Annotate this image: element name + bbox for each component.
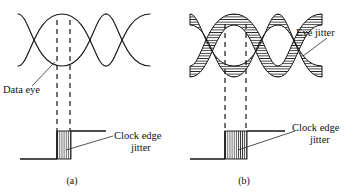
eye-trace-lower: [18, 14, 106, 66]
clock-edge-jitter-band: [225, 131, 247, 159]
panel-a-eye-diagram: [18, 14, 150, 66]
data-eye-label: Data eye: [3, 84, 40, 95]
clock-edge-jitter-label-line1: Clock edge: [114, 130, 162, 141]
panel-a: Data eye Clock edge jitter (a): [3, 14, 162, 187]
eye-trace-upper-right: [106, 14, 150, 66]
panel-a-clock-waveform: [20, 131, 106, 159]
eye-jitter-leader-line: [303, 38, 327, 56]
panel-b-caption: (b): [238, 175, 250, 187]
panel-b: Eye jitter Clock edge jitter (b): [190, 14, 340, 187]
panel-b-clock-waveform: [190, 131, 285, 159]
clock-edge-jitter-label-line2: jitter: [130, 142, 151, 153]
clock-edge-jitter-leader-line: [66, 136, 113, 150]
eye-jitter-label: Eye jitter: [296, 27, 335, 38]
data-eye-leader-line: [32, 62, 55, 86]
clock-edge-jitter-band: [57, 131, 71, 159]
figure-root: Data eye Clock edge jitter (a): [0, 0, 362, 192]
clock-edge-jitter-label-line1: Clock edge: [292, 122, 340, 133]
clock-edge-jitter-label-line2: jitter: [309, 134, 330, 145]
jitter-figure-svg: Data eye Clock edge jitter (a): [0, 0, 362, 192]
eye-trace-upper: [18, 14, 106, 66]
panel-b-eye-diagram: [190, 14, 322, 77]
panel-a-caption: (a): [66, 175, 77, 187]
eye-trace-lower-right: [106, 14, 150, 66]
